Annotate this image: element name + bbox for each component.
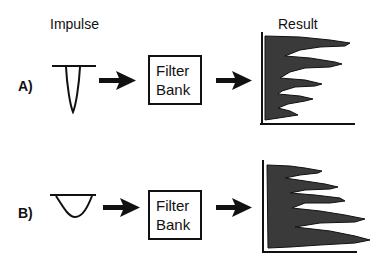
arrow-icon bbox=[103, 198, 140, 217]
diagram-graphics bbox=[0, 0, 375, 261]
arrow-icon bbox=[216, 71, 252, 90]
arrow-icon bbox=[216, 198, 252, 217]
impulse-shape-b bbox=[50, 195, 96, 217]
arrow-icon bbox=[99, 71, 136, 90]
result-plot-a bbox=[260, 32, 355, 124]
result-plot-b bbox=[262, 160, 370, 252]
impulse-shape-a bbox=[52, 66, 96, 112]
